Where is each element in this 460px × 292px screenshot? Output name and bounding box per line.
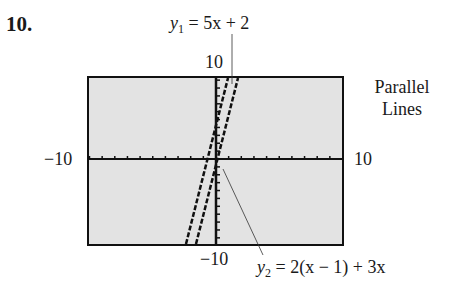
y2-leader-line — [223, 169, 263, 255]
graph-plot — [0, 0, 460, 292]
line-y1 — [186, 78, 228, 244]
